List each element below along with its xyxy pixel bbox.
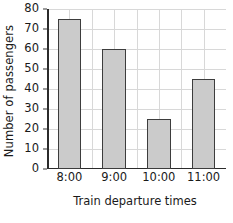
y-tick-label: 30	[24, 103, 39, 115]
x-axis-tick-labels: 8:009:0010:0011:00	[47, 172, 226, 188]
bar-chart-figure: Number of passengers 01020304050607080 8…	[0, 0, 233, 223]
y-tick-label: 80	[24, 3, 39, 15]
y-tick-label: 70	[24, 23, 39, 35]
x-axis-title: Train departure times	[40, 194, 230, 208]
x-tick-label: 9:00	[101, 172, 127, 184]
bar	[192, 79, 215, 169]
x-tick-label: 8:00	[56, 172, 82, 184]
x-tick-label: 11:00	[187, 172, 220, 184]
bar	[102, 49, 125, 169]
y-tick-label: 0	[32, 163, 39, 175]
y-axis-title-text: Number of passengers	[2, 25, 16, 157]
y-axis-title: Number of passengers	[0, 0, 18, 182]
x-tick-label: 10:00	[142, 172, 175, 184]
y-axis-tick-labels: 01020304050607080	[18, 9, 43, 169]
bar	[147, 119, 170, 169]
y-tick-label: 20	[24, 123, 39, 135]
y-tick-label: 40	[24, 83, 39, 95]
bars-layer	[47, 9, 226, 169]
y-tick-label: 50	[24, 63, 39, 75]
y-tick-label: 10	[24, 143, 39, 155]
plot-area	[47, 9, 226, 169]
y-tick-label: 60	[24, 43, 39, 55]
bar	[58, 19, 81, 169]
